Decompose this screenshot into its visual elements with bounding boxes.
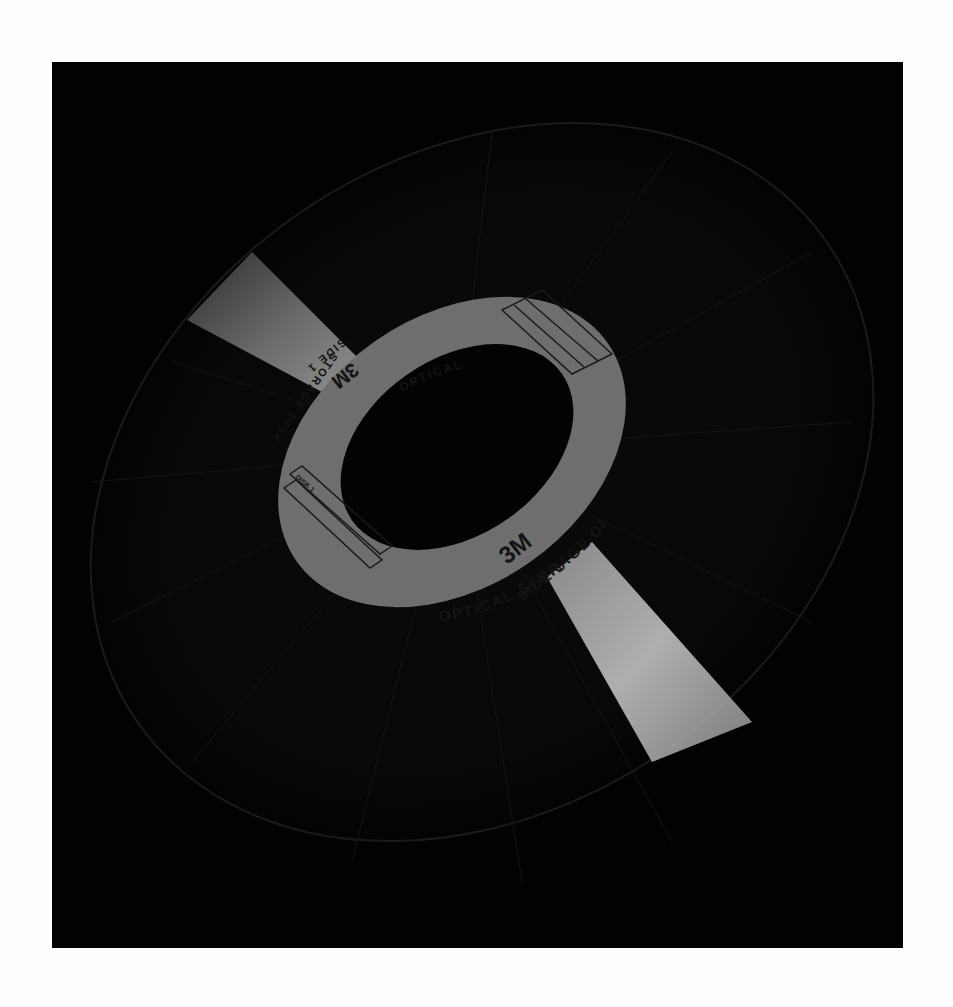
- disk-photo: DISK 1 OPTICAL STORAGE DISK 3M SIDE 1 OP…: [52, 62, 903, 948]
- photo-frame: DISK 1 OPTICAL STORAGE DISK 3M SIDE 1 OP…: [52, 62, 903, 948]
